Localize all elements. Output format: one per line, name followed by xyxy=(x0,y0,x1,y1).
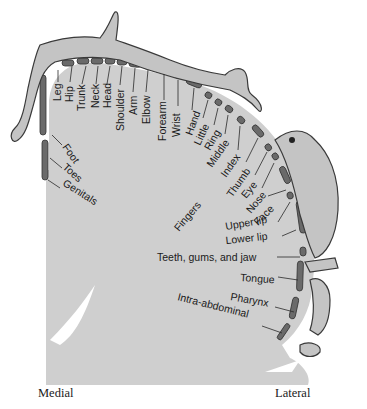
label-hip: Hip xyxy=(63,86,75,102)
label-neck: Neck xyxy=(89,83,101,108)
label-shoulder: Shoulder xyxy=(114,88,126,131)
label-forearm: Forearm xyxy=(156,101,168,141)
label-head: Head xyxy=(101,83,113,108)
label-elbow: Elbow xyxy=(140,95,152,124)
label-tongue: Tongue xyxy=(240,271,275,285)
homunculus-tongue xyxy=(310,279,330,335)
axis-label-medial: Medial xyxy=(38,386,74,400)
homunculus-pharynx xyxy=(300,343,320,357)
axis-label-lateral: Lateral xyxy=(275,386,311,400)
homunculus-eye xyxy=(289,137,295,143)
label-arm: Arm xyxy=(127,96,139,116)
label-wrist: Wrist xyxy=(170,113,182,137)
label-teeth: Teeth, gums, and jaw xyxy=(157,251,257,263)
label-leg: Leg xyxy=(51,83,63,101)
label-trunk: Trunk xyxy=(75,84,87,111)
homunculus-diagram: Leg Hip Trunk Neck Head Shoulder Arm Elb… xyxy=(0,0,367,409)
